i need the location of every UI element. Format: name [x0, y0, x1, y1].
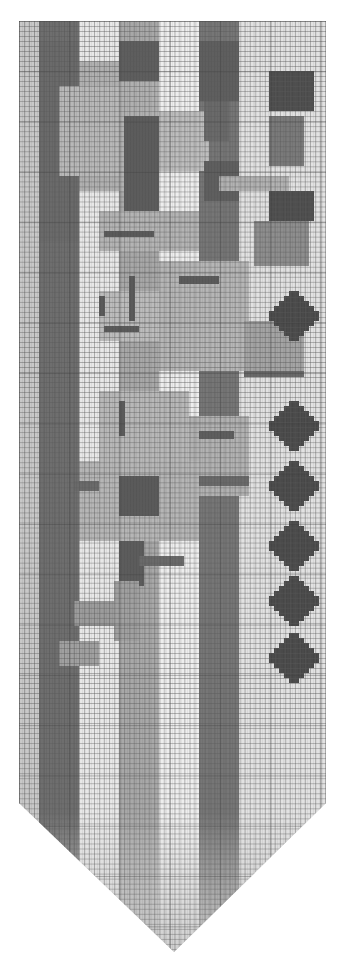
motif-block: [269, 71, 314, 111]
motif-block: [59, 641, 99, 666]
motif-block: [74, 481, 99, 491]
motif-block: [99, 296, 105, 316]
motif-block: [199, 476, 249, 486]
motif-block: [129, 276, 135, 321]
motif-block: [244, 371, 304, 377]
motif-block: [269, 116, 304, 166]
motif-block: [159, 111, 209, 171]
motif-block: [254, 221, 309, 266]
stripe-band: [19, 21, 39, 952]
motif-block: [59, 86, 119, 176]
motif-block: [74, 601, 114, 626]
motif-block: [119, 41, 159, 81]
motif-block: [204, 101, 229, 141]
motif-block: [114, 581, 139, 641]
motif-block: [124, 116, 159, 216]
motif-block: [199, 431, 234, 439]
motif-block: [139, 556, 184, 566]
motif-block: [179, 276, 219, 284]
motif-block: [219, 176, 289, 191]
motif-block: [199, 41, 239, 101]
motif-block: [119, 401, 125, 436]
motif-block: [104, 231, 154, 237]
motif-block: [119, 476, 159, 516]
cross-stitch-banner: [19, 21, 326, 952]
motif-block: [104, 326, 139, 332]
motif-block: [269, 191, 314, 221]
